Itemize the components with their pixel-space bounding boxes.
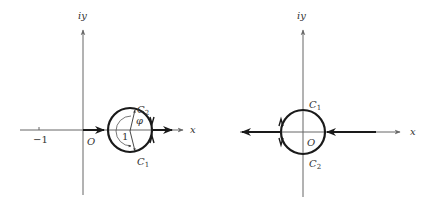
right-c1-label: C1 [309,99,321,112]
right-circle-arrow-lower-icon [279,138,283,145]
left-radius-upper [130,110,135,131]
left-radius-lower [130,131,135,151]
left-c1-label: C1 [137,156,149,169]
left-phi-label: φ [136,115,143,126]
right-diagram: iy x O C1 C2 [240,10,416,197]
right-origin-label: O [307,137,315,148]
right-x-axis-label: x [410,126,416,137]
contour-diagrams: iy x O −1 C2 C1 φ 1 iy x O C1 C2 [0,0,433,209]
left-origin-label: O [87,136,95,147]
left-tick-label: −1 [33,134,48,145]
left-y-axis-label: iy [78,10,87,21]
left-x-axis-label: x [190,124,196,135]
right-c2-label: C2 [309,158,321,171]
right-y-axis-label: iy [297,10,306,21]
left-diagram: iy x O −1 C2 C1 φ 1 [20,10,196,195]
right-circle-arrow-upper-icon [279,119,283,126]
left-radius-label: 1 [122,131,128,142]
